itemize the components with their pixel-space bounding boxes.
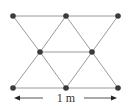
truss-member (92, 52, 118, 88)
arrow-right-icon (111, 96, 117, 101)
truss-member (92, 16, 118, 52)
dimension-arrow: 1 m (14, 91, 117, 105)
joint-middle-left (37, 49, 43, 55)
arrow-left-icon (14, 96, 20, 101)
joint-top-right (115, 13, 121, 19)
joint-bottom-left (10, 85, 16, 91)
truss-member (13, 16, 40, 52)
joint-middle-right (89, 49, 95, 55)
joint-top-left (10, 13, 16, 19)
truss-diagram: 1 m (0, 0, 129, 110)
joint-top-middle (63, 13, 69, 19)
truss-member (66, 16, 92, 52)
joint-bottom-right (115, 85, 121, 91)
truss-member (40, 52, 66, 88)
dimension-label: 1 m (57, 91, 76, 105)
truss-member (13, 52, 40, 88)
truss-edges (13, 16, 118, 88)
truss-member (40, 16, 66, 52)
joint-bottom-middle (63, 85, 69, 91)
truss-member (66, 52, 92, 88)
